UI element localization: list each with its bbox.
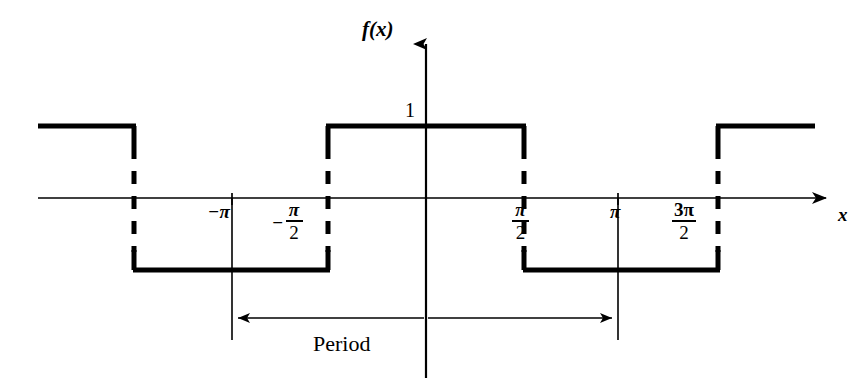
fraction-numerator: π xyxy=(513,200,527,220)
tick-label-minus-pi-over-2: − π 2 xyxy=(272,200,303,242)
fraction-numerator: 3π xyxy=(672,200,696,220)
fraction-numerator: π xyxy=(287,200,301,220)
tick-label-pi: π xyxy=(610,202,620,221)
x-axis-label: x xyxy=(838,205,848,224)
tick-label-three-pi-over-2: 3π 2 xyxy=(672,200,696,242)
fraction-denominator: 2 xyxy=(514,222,528,242)
fraction-denominator: 2 xyxy=(677,222,691,242)
square-wave-figure: f(x) x 1 −π − π 2 π 2 π 3π 2 Period xyxy=(0,0,866,388)
y-value-label-one: 1 xyxy=(405,100,415,120)
fraction-pi-over-2-positive: π 2 xyxy=(512,200,529,242)
tick-label-pi-over-2: π 2 xyxy=(512,200,529,242)
period-annotation-label: Period xyxy=(313,333,370,355)
tick-label-minus-pi: −π xyxy=(208,202,230,221)
y-axis-label-fx: f(x) xyxy=(362,19,393,40)
minus-sign: − xyxy=(272,213,284,232)
fraction-pi-over-2: π 2 xyxy=(286,200,303,242)
fraction-denominator: 2 xyxy=(287,222,301,242)
fraction-three-pi-over-2: 3π 2 xyxy=(672,200,696,242)
figure-canvas xyxy=(0,0,866,388)
